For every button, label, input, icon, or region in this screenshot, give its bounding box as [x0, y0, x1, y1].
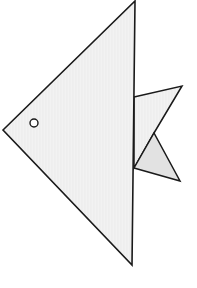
fish-eye-icon [30, 119, 38, 127]
fish-drawing [0, 0, 197, 288]
fish-body-triangle [3, 1, 135, 265]
